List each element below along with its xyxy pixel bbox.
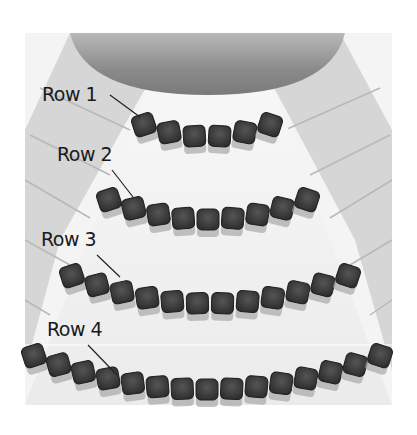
seat — [171, 207, 195, 237]
row-1-label: Row 1 — [42, 83, 97, 105]
seat — [220, 378, 243, 407]
seat — [160, 290, 184, 320]
row-4-label: Row 4 — [47, 318, 102, 340]
seat — [235, 290, 259, 320]
seat — [196, 379, 218, 407]
seat — [208, 125, 232, 154]
seat — [268, 371, 294, 402]
seat — [244, 375, 268, 405]
theater-diagram: Row 1 Row 2 Row 3 Row 4 — [0, 0, 417, 435]
seat — [121, 371, 147, 402]
seat — [135, 286, 161, 317]
row-2-label: Row 2 — [57, 143, 112, 165]
row-3-label: Row 3 — [41, 228, 96, 250]
seat — [220, 207, 244, 237]
seat — [171, 378, 194, 407]
seat — [244, 202, 270, 233]
seat — [211, 292, 234, 321]
seat — [183, 125, 207, 154]
seat — [197, 209, 219, 237]
seat — [186, 292, 209, 321]
seat — [146, 375, 170, 405]
theater-illustration — [0, 0, 417, 435]
seat — [146, 202, 172, 233]
seat — [259, 286, 285, 317]
